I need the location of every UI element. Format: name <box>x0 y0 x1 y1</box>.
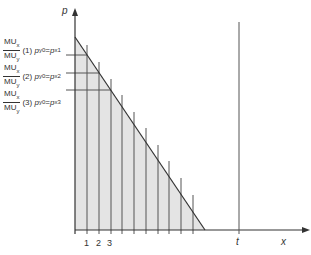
x-tick-2: 2 <box>96 239 101 248</box>
x-tick-3: 3 <box>107 239 112 248</box>
price-label-2: MUx MUy (2) py0=px2 <box>3 63 61 89</box>
x-axis-arrow-icon <box>302 227 310 233</box>
y-axis-label: p <box>62 6 68 16</box>
y-axis-arrow-icon <box>72 8 78 16</box>
t-label: t <box>236 237 239 247</box>
price-label-1: MUx MUy (1) py0=px1 <box>3 37 61 63</box>
price-label-3: MUx MUy (3) py0=px3 <box>3 89 61 115</box>
x-tick-1: 1 <box>84 239 89 248</box>
x-axis-label: x <box>281 237 286 247</box>
